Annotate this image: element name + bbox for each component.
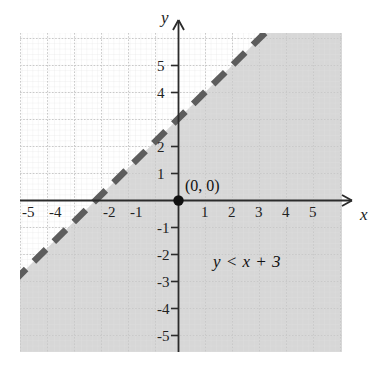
x-tick-label: 4 (282, 205, 290, 220)
graph-figure: y x (0, 0) y < x + 3 -5 -4 -2 -1 1 2 3 4… (0, 0, 391, 375)
y-tick-label: 2 (157, 140, 165, 155)
y-tick-label: -4 (157, 302, 170, 317)
y-tick-label: 5 (157, 59, 165, 74)
y-tick-label: -5 (157, 329, 170, 344)
y-tick-label: -3 (157, 275, 170, 290)
minor-grid (20, 33, 342, 352)
y-tick-label: 1 (157, 167, 165, 182)
origin-point-label: (0, 0) (185, 178, 220, 194)
x-tick-label: 5 (309, 205, 317, 220)
x-tick-label: -5 (22, 205, 35, 220)
x-tick-label: 2 (228, 205, 236, 220)
x-tick-label: -2 (103, 205, 116, 220)
origin-point-marker (173, 195, 183, 205)
x-tick-label: -1 (130, 205, 143, 220)
y-tick-label: -2 (157, 248, 170, 263)
x-axis-label: x (360, 206, 368, 223)
y-tick-label: 4 (157, 86, 165, 101)
x-tick-label: 1 (201, 205, 209, 220)
y-axis-label: y (161, 9, 169, 26)
x-tick-label: -4 (49, 205, 62, 220)
y-tick-label: -1 (157, 221, 170, 236)
x-tick-label: 3 (255, 205, 263, 220)
inequality-annotation: y < x + 3 (213, 253, 281, 270)
